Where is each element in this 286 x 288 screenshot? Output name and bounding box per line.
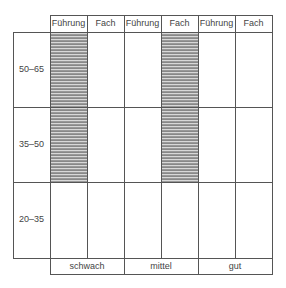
grid-line bbox=[272, 15, 273, 275]
grid-line bbox=[198, 15, 199, 275]
grid-line bbox=[87, 15, 88, 259]
column-header: Führung bbox=[124, 15, 161, 32]
grid-line bbox=[124, 15, 125, 275]
grid-line bbox=[235, 15, 236, 259]
column-header: Fach bbox=[235, 15, 272, 32]
column-header: Fach bbox=[161, 15, 198, 32]
column-header: Fach bbox=[87, 15, 124, 32]
grid-line bbox=[13, 107, 273, 108]
row-label: 35–50 bbox=[13, 139, 50, 149]
bottom-label: schwach bbox=[50, 258, 124, 274]
row-label: 20–35 bbox=[13, 214, 50, 224]
bottom-label: gut bbox=[198, 258, 272, 274]
column-header: Führung bbox=[50, 15, 87, 32]
grid-line bbox=[161, 15, 162, 259]
grid-line bbox=[13, 258, 273, 259]
grid-line bbox=[50, 274, 273, 275]
grid-line bbox=[13, 32, 273, 33]
bottom-label: mittel bbox=[124, 258, 198, 274]
grid-line bbox=[13, 182, 273, 183]
column-header: Führung bbox=[198, 15, 235, 32]
grid-line bbox=[50, 15, 51, 275]
grid-line bbox=[13, 32, 14, 259]
row-label: 50–65 bbox=[13, 64, 50, 74]
